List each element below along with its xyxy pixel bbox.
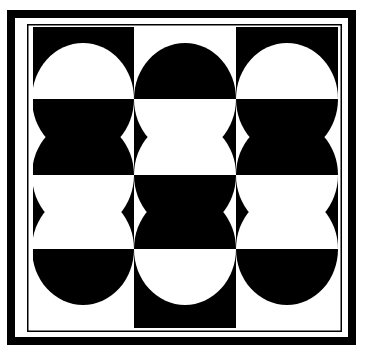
inverted-circles <box>32 43 338 305</box>
geometric-pattern <box>0 0 365 353</box>
circle-row3-col2 <box>134 193 236 305</box>
artwork-canvas: Black and White Checkerboard with Invert… <box>0 0 365 353</box>
circle-row3-col3 <box>236 193 338 305</box>
circle-row3-col1 <box>32 193 134 305</box>
